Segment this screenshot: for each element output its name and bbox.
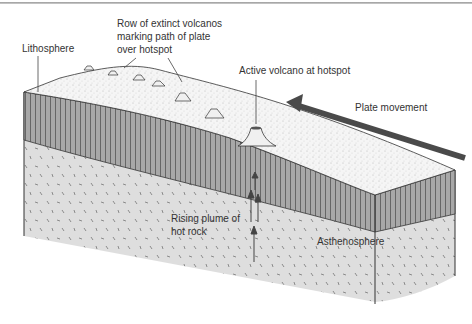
extinct-volcanos-label: Row of extinct volcanos marking path of … (117, 17, 222, 56)
plate-movement-label: Plate movement (355, 101, 427, 114)
rising-plume-label: Rising plume of hot rock (171, 212, 240, 238)
lithosphere-label: Lithosphere (22, 42, 74, 55)
active-volcano-label: Active volcano at hotspot (239, 64, 350, 77)
hotspot-diagram: Lithosphere Row of extinct volcanos mark… (0, 0, 472, 324)
asthenosphere-label: Asthenosphere (317, 235, 384, 248)
